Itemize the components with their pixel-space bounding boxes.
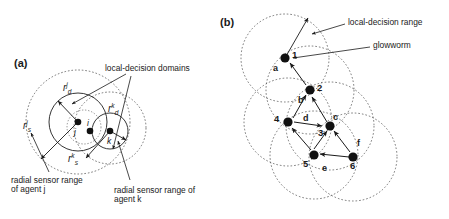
node-label-6: 6 (350, 161, 355, 172)
panel-a-label: (a) (14, 57, 27, 69)
edge-f-6-to-3 (334, 131, 350, 152)
leader-glowworm (293, 47, 370, 58)
edge-label-e: e (322, 163, 327, 173)
node-label-3: 3 (318, 128, 323, 139)
panel-a-graphics (26, 70, 146, 180)
agent-label-i: i (87, 119, 89, 129)
label-glowworm: glowworm (373, 41, 411, 50)
symbol-decision-radius-j: rjd (63, 81, 71, 96)
edge-label-c: c (333, 112, 338, 122)
leader-local-decision-domains-left (72, 74, 126, 104)
decision-domain-circle-i (67, 110, 101, 144)
agent-label-j: j (74, 128, 76, 138)
edge-label-d: d (303, 113, 309, 123)
agent-dot-j (75, 119, 82, 126)
label-local-decision-range: local-decision range (348, 18, 423, 27)
edge-label-b: b (298, 95, 304, 105)
glowworm-node-2 (305, 85, 314, 94)
glowworm-node-3 (325, 121, 334, 130)
node-label-2: 2 (317, 83, 322, 94)
glowworm-node-5 (309, 150, 318, 159)
symbol-sensor-radius-j: rjs (23, 119, 31, 134)
agent-dot-k (107, 128, 114, 135)
radius-arrow-decision-j (58, 101, 78, 122)
agent-label-k: k (107, 137, 111, 147)
edge-label-f: f (357, 138, 360, 148)
glowworm-node-1 (280, 53, 289, 62)
edge-5-to-4 (292, 128, 311, 150)
node-label-5: 5 (303, 159, 308, 170)
glowworm-node-4 (283, 117, 292, 126)
agent-dot-i (87, 128, 94, 135)
label-local-decision-domains: local-decision domains (105, 64, 190, 73)
edge-label-a: a (273, 63, 278, 73)
edge-3-to-2 (312, 97, 327, 122)
label-radial-sensor-range-agent-j: radial sensor range of agent j (11, 176, 83, 195)
label-radial-sensor-range-agent-k: radial sensor range of agent k (114, 186, 195, 205)
node-label-4: 4 (274, 114, 279, 125)
panel-b-label: (b) (220, 16, 234, 28)
symbol-sensor-radius-k: rks (68, 152, 78, 167)
leader-local-decision-range (312, 24, 345, 34)
node-label-1: 1 (292, 50, 297, 61)
figure-root: (a) local-decision domains radial sensor… (0, 0, 449, 219)
symbol-decision-radius-k: rkd (108, 102, 118, 117)
edge-a-2-to-1 (290, 63, 306, 85)
leader-sensor-range-j (31, 133, 49, 172)
edge-e-6-to-5 (320, 154, 349, 157)
